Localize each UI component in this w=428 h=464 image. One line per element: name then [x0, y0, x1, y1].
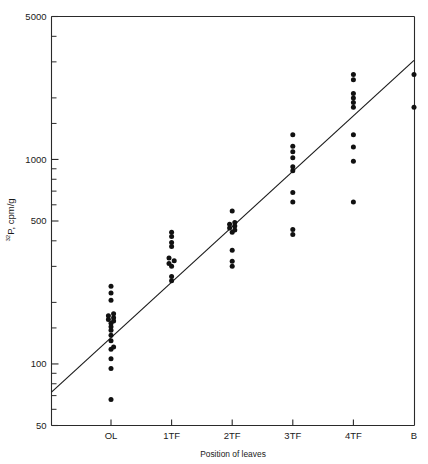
- data-point: [351, 72, 356, 77]
- data-point: [230, 208, 235, 213]
- scatter-plot-svg: 5000100050010050 OL1TF2TF3TF4TFB 32P, cp…: [0, 0, 428, 464]
- data-point: [109, 333, 114, 338]
- data-point: [109, 366, 114, 371]
- data-point: [169, 240, 174, 245]
- y-tick-label: 5000: [25, 11, 46, 22]
- chart-figure: 5000100050010050 OL1TF2TF3TF4TFB 32P, cp…: [0, 0, 428, 464]
- data-point: [351, 159, 356, 164]
- data-point: [169, 278, 174, 283]
- svg-text:32P, cpm/g: 32P, cpm/g: [4, 198, 16, 241]
- y-tick-label: 50: [36, 420, 47, 431]
- data-point: [290, 149, 295, 154]
- data-point: [109, 291, 114, 296]
- data-point: [169, 230, 174, 235]
- data-point: [172, 258, 177, 263]
- data-point: [230, 248, 235, 253]
- x-axis-ticks: [111, 420, 353, 426]
- data-point: [106, 313, 111, 318]
- data-point: [351, 95, 356, 100]
- data-point: [351, 77, 356, 82]
- data-point: [290, 232, 295, 237]
- data-point: [109, 397, 114, 402]
- x-tick-label-1tf: 1TF: [163, 430, 180, 441]
- data-point: [351, 145, 356, 150]
- data-point: [290, 155, 295, 160]
- y-tick-label: 100: [31, 358, 47, 369]
- data-point: [351, 132, 356, 137]
- data-point: [111, 345, 116, 350]
- data-point: [109, 284, 114, 289]
- x-tick-label-3tf: 3TF: [284, 430, 301, 441]
- data-point: [167, 261, 172, 266]
- data-point: [351, 100, 356, 105]
- data-point: [290, 164, 295, 169]
- data-point: [290, 190, 295, 195]
- y-axis-title-text: P, cpm/g: [5, 198, 16, 234]
- data-point: [290, 227, 295, 232]
- data-point: [169, 274, 174, 279]
- x-tick-label-ol: OL: [105, 430, 118, 441]
- data-point: [290, 199, 295, 204]
- data-point: [412, 72, 417, 77]
- data-point: [351, 199, 356, 204]
- data-points: [106, 72, 417, 402]
- x-tick-label-4tf: 4TF: [345, 430, 362, 441]
- data-point: [351, 91, 356, 96]
- data-point: [230, 259, 235, 264]
- data-point: [230, 264, 235, 269]
- data-point: [109, 298, 114, 303]
- y-axis-tick-labels: 5000100050010050: [25, 11, 46, 431]
- x-axis-title: Position of leaves: [200, 449, 266, 459]
- x-tick-label-b: B: [411, 430, 417, 441]
- data-point: [290, 144, 295, 149]
- x-tick-label-2tf: 2TF: [224, 430, 241, 441]
- x-axis-tick-labels: OL1TF2TF3TF4TFB: [105, 430, 418, 441]
- data-point: [351, 105, 356, 110]
- y-axis-ticks: [52, 17, 59, 426]
- data-point: [167, 255, 172, 260]
- data-point: [290, 132, 295, 137]
- data-point: [111, 311, 116, 316]
- y-tick-label: 1000: [25, 154, 46, 165]
- data-point: [109, 356, 114, 361]
- data-point: [412, 105, 417, 110]
- y-axis-title: 32P, cpm/g: [4, 198, 16, 241]
- data-point: [109, 338, 114, 343]
- y-tick-label: 500: [31, 215, 47, 226]
- data-point: [232, 220, 237, 225]
- data-point: [227, 222, 232, 227]
